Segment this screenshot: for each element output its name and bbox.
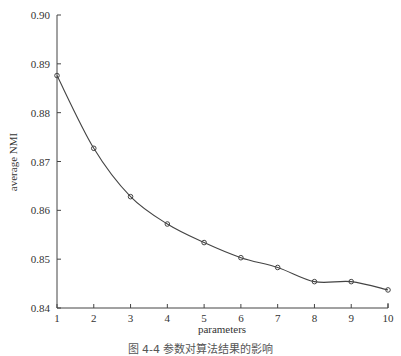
y-axis-label: average NMI: [7, 133, 19, 192]
x-tick-label: 9: [348, 312, 354, 324]
x-tick-label: 8: [312, 312, 318, 324]
x-axis-label: parameters: [198, 323, 246, 335]
x-axis-ticks: 12345678910: [54, 304, 394, 324]
x-tick-label: 4: [165, 312, 171, 324]
y-tick-label: 0.84: [31, 302, 51, 314]
y-tick-label: 0.85: [31, 253, 51, 265]
y-tick-label: 0.89: [31, 58, 51, 70]
y-tick-label: 0.87: [31, 156, 51, 168]
axes: [57, 15, 388, 308]
x-tick-label: 10: [383, 312, 395, 324]
x-tick-label: 1: [54, 312, 60, 324]
y-tick-label: 0.88: [31, 107, 51, 119]
data-markers: [55, 73, 391, 292]
y-axis-ticks: 0.840.850.860.870.880.890.90: [31, 9, 61, 314]
figure-caption: 图 4-4 参数对算法结果的影响: [0, 340, 401, 356]
y-tick-label: 0.86: [31, 204, 51, 216]
x-tick-label: 3: [128, 312, 134, 324]
data-line: [57, 76, 388, 290]
x-tick-label: 2: [91, 312, 97, 324]
x-tick-label: 7: [275, 312, 281, 324]
y-tick-label: 0.90: [31, 9, 51, 21]
